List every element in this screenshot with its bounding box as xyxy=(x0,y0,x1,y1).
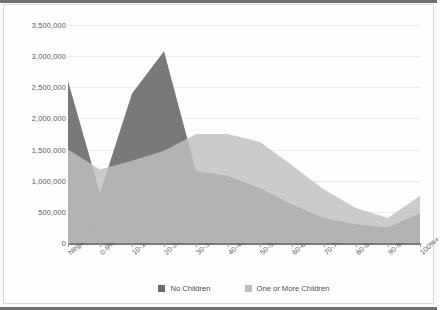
y-tick-label: 1,000,000 xyxy=(4,176,66,185)
y-axis-labels: 0500,0001,000,0001,500,0002,000,0002,500… xyxy=(0,0,66,310)
y-tick-label: 500,000 xyxy=(4,207,66,216)
y-tick-label: 1,500,000 xyxy=(4,145,66,154)
legend-swatch-icon xyxy=(158,285,165,292)
y-tick-label: 3,000,000 xyxy=(4,52,66,61)
legend-item[interactable]: One or More Children xyxy=(245,284,330,293)
y-tick-label: 0 xyxy=(4,239,66,248)
series-areas xyxy=(68,25,420,243)
y-tick-label: 2,500,000 xyxy=(4,83,66,92)
legend-item[interactable]: No Children xyxy=(158,284,210,293)
legend-label: No Children xyxy=(170,284,210,293)
chart-legend: No ChildrenOne or More Children xyxy=(68,281,420,295)
y-tick-label: 2,000,000 xyxy=(4,114,66,123)
plot-area xyxy=(68,25,420,243)
legend-swatch-icon xyxy=(245,285,252,292)
y-tick-label: 3,500,000 xyxy=(4,21,66,30)
legend-label: One or More Children xyxy=(257,284,330,293)
